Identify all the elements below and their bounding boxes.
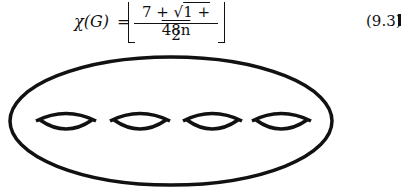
genus-surface-figure — [0, 0, 405, 187]
hole-2 — [110, 114, 170, 130]
surface-outline — [10, 57, 332, 185]
hole-4 — [252, 114, 311, 130]
surface-holes — [36, 114, 311, 130]
hole-1 — [36, 114, 96, 130]
hole-3 — [183, 114, 242, 130]
